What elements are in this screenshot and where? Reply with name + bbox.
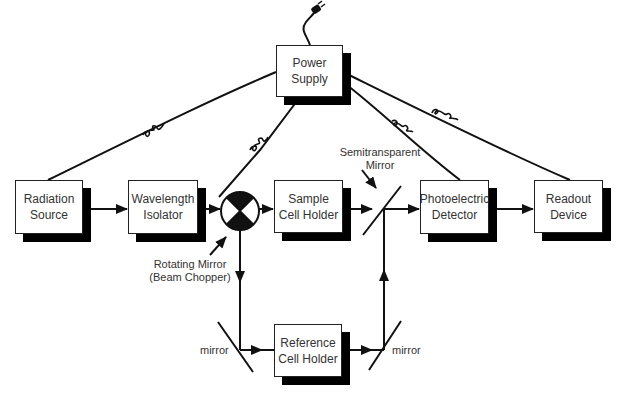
sample-cell-line1: Sample xyxy=(279,191,338,207)
semitransparent-mirror-label: Semitransparent Mirror xyxy=(336,146,424,172)
power-cord xyxy=(303,10,316,45)
semitransparent-mirror xyxy=(363,186,401,235)
left-mirror-label: mirror xyxy=(200,344,229,357)
power-supply-line1: Power xyxy=(291,55,328,71)
rotating-mirror-label: Rotating Mirror (Beam Chopper) xyxy=(140,258,240,284)
wavelength-isolator-line2: Isolator xyxy=(132,207,195,223)
right-mirror-label: mirror xyxy=(392,344,421,357)
beam-chopper-icon xyxy=(221,192,259,230)
chopper-pointer xyxy=(210,237,226,255)
reference-cell-line1: Reference xyxy=(278,335,337,351)
power-supply-line2: Supply xyxy=(291,71,328,87)
readout-line2: Device xyxy=(546,207,591,223)
power-plug-icon xyxy=(310,1,325,15)
readout-line1: Readout xyxy=(546,191,591,207)
detector-line1: Photoelectric xyxy=(420,191,489,207)
power-supply-box: PowerSupply xyxy=(276,45,343,97)
rotating-mirror-line2: (Beam Chopper) xyxy=(140,271,240,284)
reference-cell-holder-box: ReferenceCell Holder xyxy=(274,324,342,377)
radiation-source-line1: Radiation xyxy=(24,191,75,207)
radiation-source-box: RadiationSource xyxy=(15,180,83,234)
rotating-mirror-line1: Rotating Mirror xyxy=(140,258,240,271)
radiation-source-line2: Source xyxy=(24,207,75,223)
semitransparent-pointer xyxy=(362,170,376,188)
readout-device-box: ReadoutDevice xyxy=(534,180,603,233)
semitransparent-label-line2: Mirror xyxy=(336,159,424,172)
wavelength-isolator-box: WavelengthIsolator xyxy=(128,180,198,234)
sample-cell-line2: Cell Holder xyxy=(279,207,338,223)
photoelectric-detector-box: PhotoelectricDetector xyxy=(420,180,489,234)
coiled-wire-icon xyxy=(143,110,458,151)
semitransparent-label-line1: Semitransparent xyxy=(336,146,424,159)
sample-cell-holder-box: SampleCell Holder xyxy=(274,180,343,233)
wavelength-isolator-line1: Wavelength xyxy=(132,191,195,207)
reference-cell-line2: Cell Holder xyxy=(278,351,337,367)
detector-line2: Detector xyxy=(420,207,489,223)
